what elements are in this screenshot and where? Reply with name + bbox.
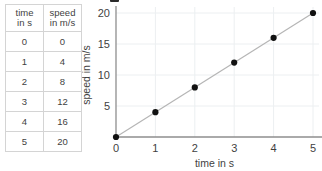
table-row: 4 16 [6, 112, 82, 132]
table-header-row: time in s speed in m/s [6, 5, 82, 32]
table-body: 0 0 1 4 2 8 3 12 4 16 5 20 [6, 32, 82, 152]
x-tick-labels: 012345 [113, 142, 316, 154]
table-header: time in s speed in m/s [6, 5, 82, 32]
y-tick-label: 15 [98, 38, 110, 50]
y-tick-labels: 5101520 [98, 7, 110, 112]
x-axis-title: time in s [195, 157, 234, 169]
cell-time: 0 [6, 32, 44, 52]
cell-time: 4 [6, 112, 44, 132]
table-row: 5 20 [6, 132, 82, 152]
x-tick-label: 3 [231, 142, 237, 154]
data-point [271, 35, 277, 41]
data-point [152, 109, 158, 115]
cell-speed: 4 [44, 52, 82, 72]
x-tick-label: 1 [152, 142, 158, 154]
x-tick-label: 2 [192, 142, 198, 154]
table-row: 3 12 [6, 92, 82, 112]
cell-time: 2 [6, 72, 44, 92]
data-point [113, 134, 119, 140]
cell-speed: 8 [44, 72, 82, 92]
cell-speed: 12 [44, 92, 82, 112]
speed-time-chart: 012345 5101520 time in s speed in m/s [82, 0, 322, 171]
cell-speed: 0 [44, 32, 82, 52]
column-header-speed-line2: in m/s [44, 18, 81, 28]
table-row: 2 8 [6, 72, 82, 92]
cell-speed: 16 [44, 112, 82, 132]
cell-speed: 20 [44, 132, 82, 152]
cell-time: 1 [6, 52, 44, 72]
data-point [310, 10, 316, 16]
data-table-container: time in s speed in m/s 0 0 1 4 2 8 [5, 4, 82, 152]
speed-time-table: time in s speed in m/s 0 0 1 4 2 8 [5, 4, 82, 152]
y-tick-label: 20 [98, 7, 110, 19]
data-point [192, 84, 198, 90]
data-point [231, 60, 237, 66]
table-row: 0 0 [6, 32, 82, 52]
column-header-time: time in s [6, 5, 44, 32]
cell-time: 5 [6, 132, 44, 152]
y-tick-label: 5 [104, 100, 110, 112]
column-header-time-line2: in s [6, 18, 43, 28]
column-header-speed: speed in m/s [44, 5, 82, 32]
cell-time: 3 [6, 92, 44, 112]
y-axis-title: speed in m/s [82, 45, 92, 105]
x-tick-label: 4 [271, 142, 277, 154]
y-tick-label: 10 [98, 69, 110, 81]
x-tick-label: 5 [310, 142, 316, 154]
x-tick-label: 0 [113, 142, 119, 154]
table-row: 1 4 [6, 52, 82, 72]
